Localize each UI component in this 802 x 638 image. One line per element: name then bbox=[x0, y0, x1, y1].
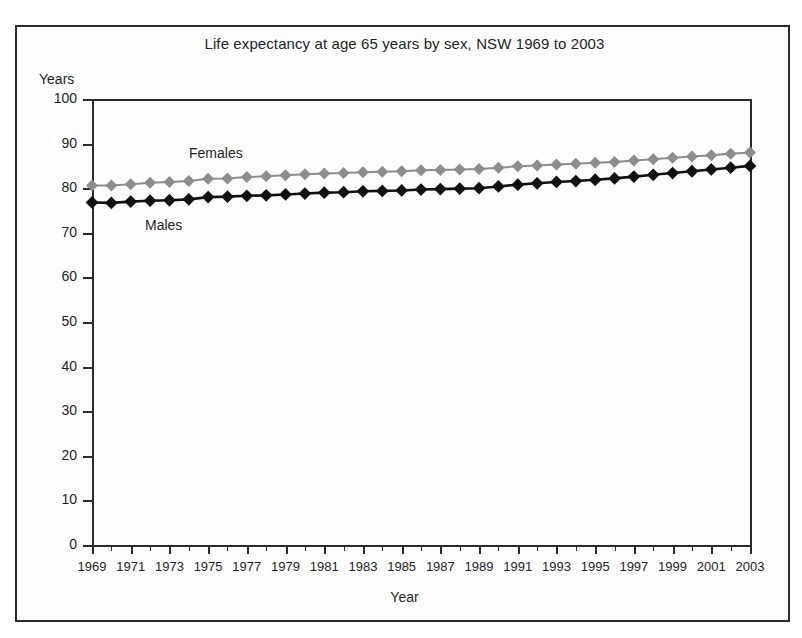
data-point-marker bbox=[666, 167, 679, 180]
series-label-females: Females bbox=[189, 145, 243, 161]
data-point-marker bbox=[318, 167, 330, 179]
data-point-marker bbox=[686, 165, 699, 178]
data-point-marker bbox=[415, 164, 427, 176]
data-point-marker bbox=[647, 168, 660, 181]
data-point-marker bbox=[511, 178, 524, 191]
data-point-marker bbox=[298, 187, 311, 200]
data-point-marker bbox=[473, 163, 485, 175]
data-point-marker bbox=[705, 163, 718, 176]
data-point-marker bbox=[86, 180, 98, 192]
data-point-marker bbox=[318, 186, 331, 199]
data-point-marker bbox=[550, 176, 563, 189]
data-point-marker bbox=[724, 161, 737, 174]
data-point-marker bbox=[608, 172, 621, 185]
data-point-marker bbox=[357, 166, 369, 178]
data-point-marker bbox=[144, 177, 156, 189]
data-point-marker bbox=[744, 147, 756, 159]
data-point-marker bbox=[338, 167, 350, 179]
data-point-marker bbox=[628, 155, 640, 167]
data-point-marker bbox=[144, 194, 157, 207]
data-point-marker bbox=[260, 170, 272, 182]
data-point-marker bbox=[396, 165, 408, 177]
data-point-marker bbox=[434, 164, 446, 176]
chart-figure-frame: Life expectancy at age 65 years by sex, … bbox=[15, 25, 790, 622]
data-point-marker bbox=[569, 175, 582, 188]
data-point-marker bbox=[163, 176, 175, 188]
data-point-marker bbox=[202, 173, 214, 185]
data-point-marker bbox=[221, 190, 234, 203]
data-point-marker bbox=[395, 184, 408, 197]
data-point-marker bbox=[202, 191, 215, 204]
data-point-marker bbox=[686, 151, 698, 163]
data-point-marker bbox=[531, 177, 544, 190]
data-point-marker bbox=[221, 172, 233, 184]
data-point-marker bbox=[453, 182, 466, 195]
data-point-marker bbox=[705, 149, 717, 161]
data-point-marker bbox=[357, 185, 370, 198]
data-point-marker bbox=[627, 170, 640, 183]
data-point-marker bbox=[163, 194, 176, 207]
data-point-marker bbox=[512, 160, 524, 172]
data-point-marker bbox=[415, 183, 428, 196]
data-point-marker bbox=[667, 152, 679, 164]
data-point-marker bbox=[570, 158, 582, 170]
data-point-marker bbox=[454, 163, 466, 175]
data-point-marker bbox=[434, 183, 447, 196]
data-point-marker bbox=[492, 180, 505, 193]
data-point-marker bbox=[86, 196, 99, 209]
data-point-marker bbox=[125, 178, 137, 190]
data-point-marker bbox=[376, 184, 389, 197]
data-point-marker bbox=[337, 186, 350, 199]
data-point-marker bbox=[589, 173, 602, 186]
data-point-marker bbox=[725, 148, 737, 160]
data-point-marker bbox=[299, 168, 311, 180]
data-point-marker bbox=[124, 195, 137, 208]
data-point-marker bbox=[473, 182, 486, 195]
data-point-marker bbox=[609, 156, 621, 168]
data-point-marker bbox=[241, 171, 253, 183]
data-point-marker bbox=[183, 175, 195, 187]
data-point-marker bbox=[550, 159, 562, 171]
data-point-marker bbox=[182, 193, 195, 206]
data-point-marker bbox=[105, 180, 117, 192]
data-point-marker bbox=[492, 162, 504, 174]
series-label-males: Males bbox=[145, 217, 182, 233]
data-point-marker bbox=[280, 169, 292, 181]
data-point-marker bbox=[279, 188, 292, 201]
data-point-marker bbox=[105, 197, 118, 210]
data-point-marker bbox=[744, 160, 757, 173]
data-point-marker bbox=[260, 189, 273, 202]
series-layer bbox=[17, 27, 792, 624]
data-point-marker bbox=[240, 189, 253, 202]
data-point-marker bbox=[589, 157, 601, 169]
data-point-marker bbox=[647, 153, 659, 165]
data-point-marker bbox=[531, 159, 543, 171]
data-point-marker bbox=[376, 166, 388, 178]
